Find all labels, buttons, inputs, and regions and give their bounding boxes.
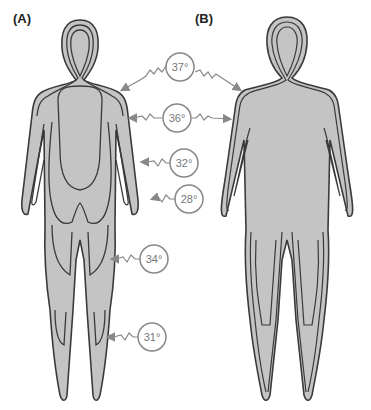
thermoregulation-diagram: 37° 36° 32° 28° 34° 31° [0, 0, 371, 410]
temp-label-28: 28° [181, 193, 198, 205]
callout-36: 36° [130, 104, 230, 132]
callout-37: 37° [122, 53, 240, 90]
temp-label-31: 31° [144, 331, 161, 343]
body-figure-a [22, 20, 138, 400]
temp-label-32: 32° [176, 157, 193, 169]
callout-31: 31° [108, 323, 166, 351]
body-figure-b [221, 17, 352, 400]
callout-28: 28° [152, 185, 203, 213]
temp-label-37: 37° [172, 61, 189, 73]
temp-label-36: 36° [169, 112, 186, 124]
callout-34: 34° [112, 245, 168, 273]
callout-32: 32° [142, 149, 198, 177]
temp-label-34: 34° [146, 253, 163, 265]
